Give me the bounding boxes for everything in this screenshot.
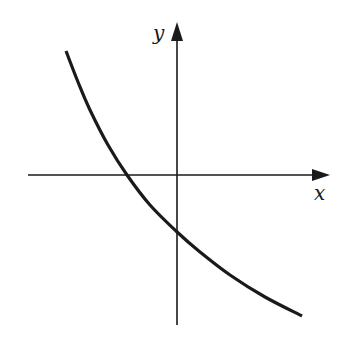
function-curve	[66, 51, 302, 316]
y-axis-arrow-icon	[171, 22, 183, 41]
y-axis-label: y	[152, 21, 165, 45]
x-axis-label: x	[314, 181, 325, 205]
x-axis-arrow-icon	[312, 169, 330, 181]
function-graph: y x	[0, 0, 342, 340]
